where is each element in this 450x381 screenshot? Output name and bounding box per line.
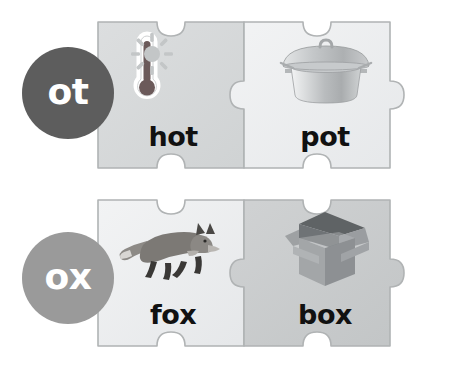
puzzle-piece-box[interactable] bbox=[230, 200, 404, 346]
rime-bubble-ox-label: ox bbox=[45, 259, 92, 295]
puzzle-row-ot-shapes bbox=[95, 19, 435, 185]
puzzle-row-ox: fox bbox=[95, 197, 425, 359]
rime-bubble-ox[interactable]: ox bbox=[22, 232, 114, 324]
puzzle-piece-pot[interactable] bbox=[230, 22, 404, 168]
puzzle-row-ot: hot bbox=[95, 19, 425, 181]
puzzle-row-ox-shapes bbox=[95, 197, 435, 363]
rime-bubble-ot-label: ot bbox=[48, 74, 89, 110]
rime-bubble-ot[interactable]: ot bbox=[22, 47, 114, 139]
puzzle-canvas: ot bbox=[0, 0, 450, 381]
